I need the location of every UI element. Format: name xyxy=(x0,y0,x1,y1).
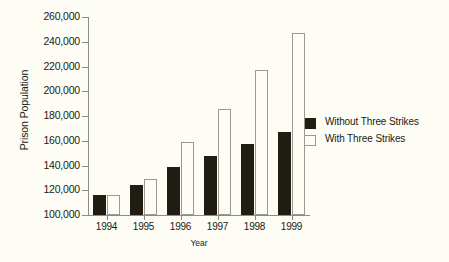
y-axis-tick-label: 120,000 xyxy=(8,183,80,195)
bar xyxy=(167,167,180,215)
y-axis-tick-label: 100,000 xyxy=(8,208,80,220)
bar xyxy=(181,142,194,215)
legend-label: With Three Strikes xyxy=(325,133,405,144)
x-axis-tick-label: 1998 xyxy=(235,221,275,232)
x-axis-tick xyxy=(255,215,256,220)
y-axis-tick-label: 260,000 xyxy=(8,10,80,22)
x-axis-tick-label: 1994 xyxy=(87,221,127,232)
bar xyxy=(292,33,305,215)
x-axis-tick-label: 1996 xyxy=(161,221,201,232)
x-axis-tick-label: 1997 xyxy=(198,221,238,232)
bar-chart: Prison Population 260,000240,000220,0002… xyxy=(0,0,449,262)
x-axis-line xyxy=(88,215,310,216)
y-axis-tick-label: 240,000 xyxy=(8,35,80,47)
bar xyxy=(93,195,106,215)
y-axis-tick-label: 180,000 xyxy=(8,109,80,121)
x-axis-tick xyxy=(218,215,219,220)
y-axis-tick xyxy=(82,166,88,167)
x-axis-tick-label: 1995 xyxy=(124,221,164,232)
x-axis-tick xyxy=(107,215,108,220)
x-axis-title: Year xyxy=(88,238,310,248)
y-axis-tick xyxy=(82,17,88,18)
bar xyxy=(144,179,157,215)
x-axis-tick xyxy=(181,215,182,220)
x-axis-tick xyxy=(144,215,145,220)
y-axis-tick xyxy=(82,141,88,142)
bar xyxy=(218,109,231,215)
y-axis-tick xyxy=(82,91,88,92)
bar xyxy=(130,185,143,215)
x-axis-tick xyxy=(292,215,293,220)
bar xyxy=(204,156,217,215)
y-axis-tick-label: 200,000 xyxy=(8,84,80,96)
bar xyxy=(255,70,268,215)
y-axis-line xyxy=(88,17,89,215)
y-axis-tick xyxy=(82,67,88,68)
bar xyxy=(241,144,254,215)
y-axis-tick xyxy=(82,116,88,117)
x-axis-tick-label: 1999 xyxy=(272,221,312,232)
y-axis-tick xyxy=(82,42,88,43)
bar xyxy=(278,132,291,215)
bar xyxy=(107,195,120,215)
y-axis-tick-label: 220,000 xyxy=(8,60,80,72)
y-axis-tick xyxy=(82,190,88,191)
legend-label: Without Three Strikes xyxy=(325,116,419,127)
y-axis-tick-label: 140,000 xyxy=(8,159,80,171)
y-axis-tick-label: 160,000 xyxy=(8,134,80,146)
